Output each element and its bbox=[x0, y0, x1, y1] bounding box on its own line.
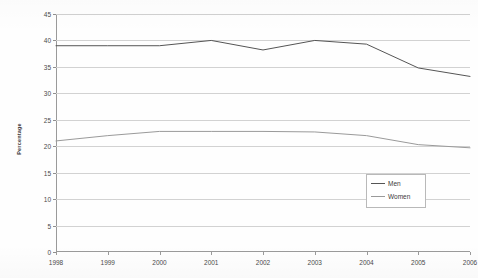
y-axis-tick-label: 45 bbox=[44, 11, 51, 18]
x-axis-tick-mark bbox=[263, 252, 264, 255]
legend-label-women: Women bbox=[388, 193, 410, 200]
x-axis-tick-label: 2003 bbox=[308, 259, 322, 266]
y-axis-title: Percentage bbox=[16, 123, 22, 155]
legend-entry-men: Men bbox=[371, 180, 401, 187]
x-axis-tick-mark bbox=[108, 252, 109, 255]
x-axis-tick-mark bbox=[160, 252, 161, 255]
x-axis-tick-mark bbox=[56, 252, 57, 255]
y-axis-tick-label: 40 bbox=[44, 37, 51, 44]
y-axis-tick-label: 35 bbox=[44, 63, 51, 70]
legend-swatch-men-icon bbox=[371, 183, 385, 184]
x-axis-tick-mark bbox=[367, 252, 368, 255]
chart-legend: Men Women bbox=[366, 174, 426, 208]
legend-swatch-women-icon bbox=[371, 196, 385, 197]
x-axis-tick-label: 2000 bbox=[152, 259, 166, 266]
y-axis-tick-label: 20 bbox=[44, 143, 51, 150]
x-axis-tick-mark bbox=[418, 252, 419, 255]
chart-title bbox=[45, 0, 165, 2]
x-axis-tick-label: 2006 bbox=[463, 259, 477, 266]
chart-container: Percentage 051015202530354045 1998199920… bbox=[0, 0, 478, 278]
legend-entry-women: Women bbox=[371, 193, 410, 200]
series-lines-group bbox=[56, 14, 470, 252]
legend-label-men: Men bbox=[388, 180, 401, 187]
series-line-men bbox=[56, 40, 470, 76]
x-axis-tick-label: 2002 bbox=[256, 259, 270, 266]
series-line-women bbox=[56, 131, 470, 147]
x-axis-tick-mark bbox=[211, 252, 212, 255]
x-axis-tick-label: 2005 bbox=[411, 259, 425, 266]
x-axis-tick-label: 1998 bbox=[49, 259, 63, 266]
y-axis-tick-label: 5 bbox=[47, 222, 51, 229]
x-axis-tick-label: 2004 bbox=[359, 259, 373, 266]
y-axis-tick-label: 10 bbox=[44, 196, 51, 203]
plot-area: 051015202530354045 199819992000200120022… bbox=[56, 14, 470, 252]
x-axis-tick-label: 2001 bbox=[204, 259, 218, 266]
y-axis-tick-label: 15 bbox=[44, 169, 51, 176]
y-axis-tick-label: 30 bbox=[44, 90, 51, 97]
y-axis-tick-label: 25 bbox=[44, 116, 51, 123]
x-axis-tick-mark bbox=[315, 252, 316, 255]
x-axis-tick-mark bbox=[470, 252, 471, 255]
x-axis-tick-label: 1999 bbox=[101, 259, 115, 266]
y-axis-tick-label: 0 bbox=[47, 249, 51, 256]
